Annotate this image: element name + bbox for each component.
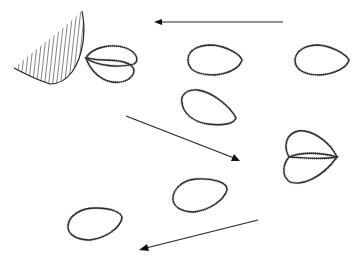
diagram-canvas <box>0 0 358 261</box>
arrow-middle <box>126 116 240 161</box>
arrow-top <box>154 19 283 25</box>
cell-top-center <box>188 45 242 75</box>
diagram-svg <box>0 0 358 261</box>
cell-top-right <box>295 45 349 75</box>
arrow-bottom <box>139 220 258 251</box>
cell-lower-center <box>173 179 227 212</box>
cell-pair-top-left <box>86 46 137 83</box>
hatched-wedge <box>12 0 90 90</box>
cell-pair-right <box>284 131 337 183</box>
cell-bottom-left <box>68 208 122 240</box>
cell-middle-center <box>182 90 236 125</box>
